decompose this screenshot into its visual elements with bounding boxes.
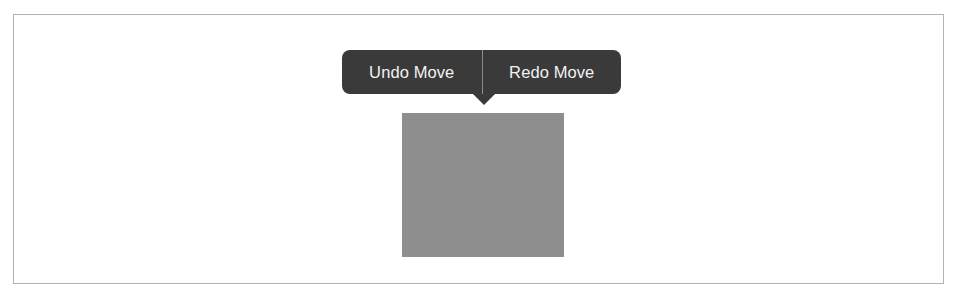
action-bar-pointer-icon [473, 94, 495, 105]
draggable-block[interactable] [402, 113, 564, 257]
undo-move-button[interactable]: Undo Move [342, 50, 482, 94]
redo-move-label: Redo Move [509, 63, 594, 82]
figure-frame: Undo Move Redo Move [13, 14, 944, 284]
redo-move-button[interactable]: Redo Move [483, 50, 622, 94]
undo-move-label: Undo Move [369, 63, 454, 82]
editor-canvas[interactable]: Undo Move Redo Move [14, 15, 943, 283]
context-action-bar: Undo Move Redo Move [342, 50, 621, 94]
screenshot-root: Undo Move Redo Move [0, 0, 961, 303]
